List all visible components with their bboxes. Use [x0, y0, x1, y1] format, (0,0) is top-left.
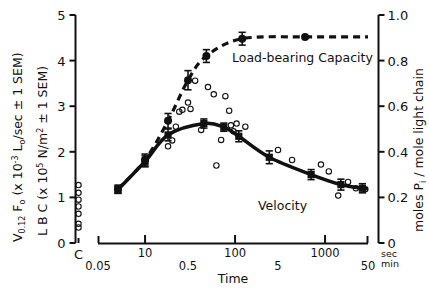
figure-container: 012345 V0.12 Fo (x 10-3 Lo/sec ± 1 SEM) …: [0, 0, 429, 288]
lbc-marker-filled-circle: [184, 76, 192, 84]
x-axis-title: Time: [217, 271, 249, 286]
right-tick-label-1: 1.0: [388, 8, 409, 23]
lbc-marker-filled-circle: [301, 33, 309, 41]
left-axis-title-velocity: V0.12 Fo (x 10-3 Lo/sec ± 1 SEM): [10, 52, 27, 242]
left-tick-label-1: 1: [57, 190, 65, 205]
left-tick-label-5: 5: [57, 8, 65, 23]
lbc-marker-filled-circle: [238, 35, 246, 43]
dual-axis-line-chart: 012345 V0.12 Fo (x 10-3 Lo/sec ± 1 SEM) …: [0, 0, 429, 288]
velocity-marker-filled-square: [141, 158, 148, 165]
velocity-marker-filled-square: [359, 185, 366, 192]
velocity-marker-filled-square: [164, 131, 171, 138]
velocity-marker-filled-square: [337, 181, 344, 188]
x-tick-label-min-0.5: 0.5: [179, 259, 197, 273]
x-tick-label-sec-10: 10: [138, 246, 153, 260]
left-tick-label-4: 4: [57, 54, 65, 69]
lbc-series-label: Load-bearing Capacity: [232, 50, 373, 65]
right-tick-label-0.2: 0.2: [388, 190, 409, 205]
lbc-marker-filled-circle: [164, 117, 172, 125]
velocity-marker-filled-square: [266, 154, 273, 161]
x-tick-label-min-50: 50: [361, 259, 376, 273]
right-tick-label-0.8: 0.8: [388, 54, 409, 69]
left-axis-title-lbc: L B C (x 105 N/m2 ± 1 SEM): [35, 66, 50, 236]
x-axis-unit-min: min: [381, 258, 399, 269]
left-tick-label-2: 2: [57, 145, 65, 160]
velocity-series-label: Velocity: [258, 198, 308, 213]
lbc-marker-filled-circle: [202, 52, 210, 60]
x-tick-label-sec-1000: 1000: [310, 246, 339, 260]
left-tick-label-3: 3: [57, 99, 65, 114]
x-tick-label-min-5: 5: [274, 259, 281, 273]
x-tick-label-min-0.05: 0.05: [85, 259, 111, 273]
velocity-marker-filled-square: [308, 171, 315, 178]
left-tick-label-0: 0: [57, 236, 65, 251]
velocity-marker-filled-square: [114, 186, 121, 193]
right-tick-label-0.6: 0.6: [388, 99, 409, 114]
right-axis-title: moles Pi / mole light chain: [411, 68, 428, 232]
x-tick-label-sec-100: 100: [224, 246, 246, 260]
velocity-marker-filled-square: [235, 133, 242, 140]
velocity-marker-filled-square: [220, 124, 227, 131]
right-tick-label-0.4: 0.4: [388, 145, 409, 160]
velocity-marker-filled-square: [200, 120, 207, 127]
control-axis-label: C: [74, 247, 83, 262]
